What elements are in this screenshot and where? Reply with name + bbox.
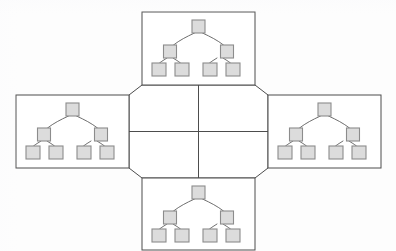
right-face (268, 95, 381, 168)
top-tree-node-left (164, 45, 177, 58)
right-tree-node-root (318, 103, 331, 116)
bottom-tree-node-leaf-2 (175, 229, 189, 242)
left-tree-node-leaf-1 (26, 146, 40, 159)
left-tree-node-left (38, 128, 51, 141)
bottom-face (142, 178, 255, 250)
cube-net-diagram (0, 0, 396, 251)
center-faces-group (129, 85, 268, 178)
top-tree-node-root (192, 20, 205, 33)
bottom-tree-node-left (164, 211, 177, 224)
diagram-canvas (0, 0, 396, 251)
bottom-tree-node-root (192, 186, 205, 199)
top-tree-node-right (221, 45, 234, 58)
left-tree-node-leaf-2 (49, 146, 63, 159)
left-face (16, 95, 129, 168)
left-tree-node-root (66, 103, 79, 116)
bottom-tree-node-leaf-4 (226, 229, 240, 242)
right-tree-node-leaf-3 (329, 146, 343, 159)
left-tree-node-right (95, 128, 108, 141)
right-tree-node-leaf-2 (301, 146, 315, 159)
top-tree-node-leaf-4 (226, 63, 240, 76)
right-tree-node-left (290, 128, 303, 141)
top-tree-node-leaf-2 (175, 63, 189, 76)
bottom-tree-node-leaf-3 (203, 229, 217, 242)
right-tree-node-right (347, 128, 360, 141)
bottom-tree-node-leaf-1 (152, 229, 166, 242)
top-tree-node-leaf-3 (203, 63, 217, 76)
top-face (142, 12, 255, 85)
right-tree-node-leaf-1 (278, 146, 292, 159)
bottom-tree-node-right (221, 211, 234, 224)
left-tree-node-leaf-3 (77, 146, 91, 159)
top-tree-node-leaf-1 (152, 63, 166, 76)
right-tree-node-leaf-4 (352, 146, 366, 159)
left-tree-node-leaf-4 (100, 146, 114, 159)
